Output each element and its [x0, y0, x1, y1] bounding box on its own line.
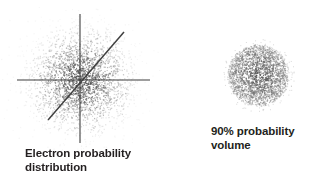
electron-probability-distribution-panel	[0, 0, 165, 150]
electron-probability-scatter-cloud	[0, 0, 165, 150]
caption-probability-volume: 90% probability volume	[211, 125, 314, 152]
probability-volume-panel	[196, 30, 314, 125]
probability-volume-dot-cloud	[196, 30, 314, 125]
figure-canvas: Electron probability distribution 90% pr…	[0, 0, 314, 186]
caption-electron-probability-distribution: Electron probability distribution	[25, 147, 185, 174]
